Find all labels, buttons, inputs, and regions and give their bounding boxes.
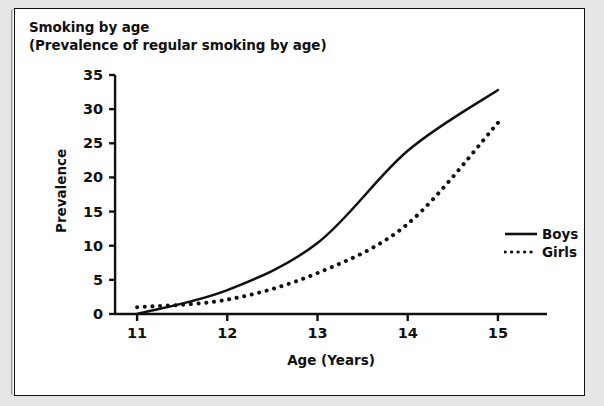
- x-axis-tick-label: 15: [478, 325, 518, 341]
- page-background: Smoking by age (Prevalence of regular sm…: [0, 0, 604, 406]
- legend-dotted-line-icon: [504, 246, 538, 258]
- series-line-girls: [137, 123, 498, 307]
- legend-item-boys: Boys: [504, 225, 590, 243]
- x-axis-tick-label: 13: [298, 325, 338, 341]
- x-axis-tick-label: 12: [207, 325, 247, 341]
- y-axis-tick-label: 10: [73, 238, 103, 254]
- series-line-boys: [137, 90, 498, 314]
- legend-item-girls: Girls: [504, 243, 590, 261]
- y-axis-tick-label: 35: [73, 67, 103, 83]
- y-axis-tick-label: 15: [73, 204, 103, 220]
- x-axis-title: Age (Years): [231, 352, 431, 368]
- legend-solid-line-icon: [504, 228, 538, 240]
- legend-label-girls: Girls: [542, 245, 577, 259]
- chart-legend: Boys Girls: [504, 225, 590, 261]
- y-axis-tick-label: 0: [73, 306, 103, 322]
- figure-frame: Smoking by age (Prevalence of regular sm…: [14, 8, 585, 396]
- y-axis-tick-label: 5: [73, 272, 103, 288]
- x-axis-tick-label: 14: [388, 325, 428, 341]
- legend-label-boys: Boys: [542, 227, 578, 241]
- figure-canvas: Smoking by age (Prevalence of regular sm…: [15, 9, 584, 395]
- x-axis-tick-label: 11: [117, 325, 157, 341]
- y-axis-title: Prevalence: [53, 148, 69, 232]
- y-axis-tick-label: 30: [73, 101, 103, 117]
- y-axis-tick-label: 20: [73, 169, 103, 185]
- y-axis-tick-label: 25: [73, 135, 103, 151]
- plot-area: 05101520253035 1112131415 Age (Years) Pr…: [15, 9, 586, 397]
